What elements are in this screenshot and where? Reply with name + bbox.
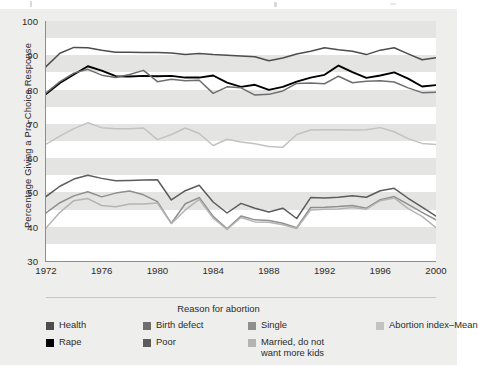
legend-entry-label: Poor xyxy=(156,336,176,347)
y-axis-tick-labels: 30405060708090100 xyxy=(6,9,38,365)
y-axis-tick-label: 50 xyxy=(12,187,38,198)
legend-swatch-icon xyxy=(248,322,256,330)
series-line-abortion-index-mean xyxy=(46,123,436,147)
legend-title: Reason for abortion xyxy=(46,303,391,314)
y-axis-tick-label: 70 xyxy=(12,118,38,129)
plot-region xyxy=(46,21,436,261)
chart-area: Percentage Giving a Pro-Choice Response … xyxy=(0,9,457,365)
legend-entry-label: Health xyxy=(59,319,86,330)
y-axis-tick-label: 60 xyxy=(12,153,38,164)
scan-artifact xyxy=(390,3,396,5)
legend-entry-label: Abortion index–Mean xyxy=(389,319,478,330)
y-axis-tick-label: 40 xyxy=(12,221,38,232)
legend-divider xyxy=(46,297,436,298)
legend: Reason for abortion HealthRapeBirth defe… xyxy=(46,303,450,365)
scan-artifact xyxy=(274,2,277,7)
series-line-health xyxy=(46,47,436,66)
x-axis-tick-labels: 19721976198019841988199219962000 xyxy=(46,265,436,281)
series-line-married-do-not-want-more-kids xyxy=(46,198,436,230)
legend-entry-label: Birth defect xyxy=(156,319,203,330)
x-axis-line xyxy=(45,261,436,262)
scan-top-margin xyxy=(0,0,457,9)
x-axis-tick-label: 2000 xyxy=(425,265,446,276)
legend-swatch-icon xyxy=(143,322,151,330)
series-line-single xyxy=(46,191,436,229)
series-line-birth-defect xyxy=(46,69,436,95)
legend-swatch-icon xyxy=(376,322,384,330)
y-axis-tick-label: 90 xyxy=(12,50,38,61)
x-axis-tick-label: 1980 xyxy=(147,265,168,276)
legend-swatch-icon xyxy=(46,322,54,330)
y-axis-tick-label: 100 xyxy=(12,16,38,27)
x-axis-tick-label: 1996 xyxy=(370,265,391,276)
legend-entry-label: Married, do notwant more kids xyxy=(261,336,324,358)
legend-entry-label: Rape xyxy=(59,336,81,347)
x-axis-tick-label: 1984 xyxy=(202,265,223,276)
y-axis-tick-label: 80 xyxy=(12,84,38,95)
x-axis-tick-label: 1976 xyxy=(91,265,112,276)
x-axis-tick-label: 1992 xyxy=(314,265,335,276)
legend-entry-label-line2: want more kids xyxy=(261,347,324,358)
legend-swatch-icon xyxy=(248,339,256,347)
legend-swatch-icon xyxy=(46,339,54,347)
x-axis-tick-label: 1988 xyxy=(258,265,279,276)
series-lines xyxy=(46,21,436,261)
legend-entry-label: Single xyxy=(261,319,287,330)
scan-artifact xyxy=(30,1,32,7)
y-axis-tick-label: 30 xyxy=(12,256,38,267)
series-line-rape xyxy=(46,66,436,94)
legend-swatch-icon xyxy=(143,339,151,347)
x-axis-tick-label: 1972 xyxy=(35,265,56,276)
